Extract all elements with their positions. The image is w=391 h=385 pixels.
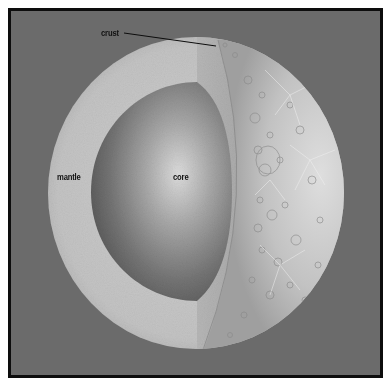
label-mantle: mantle [57, 172, 81, 182]
label-crust: crust [101, 28, 119, 38]
label-core: core [173, 172, 188, 182]
planet-cutaway-illustration [0, 0, 391, 385]
